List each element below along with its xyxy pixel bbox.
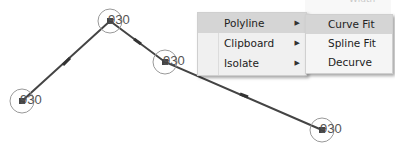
submenu-arrow-icon: ▶ <box>295 33 300 53</box>
vertex-1[interactable]: 930 <box>98 9 130 33</box>
polyline-submenu: Curve Fit Spline Fit Decurve <box>305 14 393 74</box>
submenu-partial-item: Width <box>305 0 391 14</box>
submenu-arrow-icon: ▶ <box>295 13 300 33</box>
menu-item-curve-fit[interactable]: Curve Fit <box>306 15 392 34</box>
vertex-0[interactable]: 930 <box>10 89 42 113</box>
menu-item-clipboard[interactable]: Clipboard ▶ <box>198 33 306 53</box>
vertex-elevation-label: 930 <box>108 12 130 27</box>
vertex-elevation-label: 930 <box>20 92 42 107</box>
context-menu: Polyline ▶ Clipboard ▶ Isolate ▶ <box>197 12 307 76</box>
submenu-arrow-icon: ▶ <box>295 53 300 73</box>
vertex-elevation-label: 930 <box>320 121 342 136</box>
menu-item-isolate[interactable]: Isolate ▶ <box>198 53 306 73</box>
vertex-3[interactable]: 930 <box>310 118 342 142</box>
menu-item-decurve[interactable]: Decurve <box>306 53 392 72</box>
menu-item-spline-fit[interactable]: Spline Fit <box>306 34 392 53</box>
vertex-elevation-label: 930 <box>163 53 185 68</box>
vertex-2[interactable]: 930 <box>153 50 185 74</box>
menu-item-polyline[interactable]: Polyline ▶ <box>198 13 306 33</box>
